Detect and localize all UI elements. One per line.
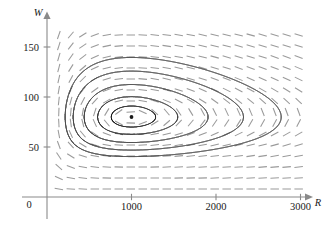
- direction-field-segment: [295, 45, 303, 48]
- direction-field-segment: [235, 98, 242, 103]
- direction-field-segment: [211, 34, 219, 36]
- direction-field-segment: [67, 189, 75, 190]
- direction-field-segment: [235, 132, 243, 136]
- direction-field-segment: [271, 144, 279, 146]
- direction-field: [55, 31, 303, 190]
- direction-field-segment: [57, 152, 62, 159]
- direction-field-segment: [247, 45, 255, 47]
- direction-field-segment: [283, 56, 291, 59]
- direction-field-segment: [259, 45, 267, 47]
- direction-field-segment: [115, 78, 123, 79]
- direction-field-segment: [79, 155, 87, 158]
- direction-field-segment: [247, 67, 255, 70]
- direction-field-segment: [67, 166, 75, 169]
- direction-field-segment: [115, 35, 123, 36]
- direction-field-segment: [223, 98, 230, 103]
- direction-field-segment: [175, 144, 183, 145]
- direction-field-segment: [105, 108, 109, 115]
- direction-field-segment: [211, 78, 219, 81]
- direction-field-segment: [70, 97, 72, 105]
- y-axis-label: W: [34, 7, 44, 18]
- direction-field-segment: [199, 88, 207, 91]
- direction-field-segment: [58, 64, 60, 72]
- direction-field-segment: [283, 45, 291, 48]
- direction-field-segment: [163, 133, 171, 135]
- direction-field-segment: [247, 34, 255, 36]
- direction-field-segment: [213, 108, 217, 116]
- direction-field-segment: [222, 167, 230, 168]
- direction-field-segment: [258, 167, 266, 168]
- origin-label: 0: [26, 199, 31, 210]
- direction-field-segment: [175, 56, 183, 58]
- direction-field-segment: [187, 156, 195, 157]
- direction-field-segment: [271, 77, 279, 81]
- direction-field-segment: [258, 155, 266, 156]
- direction-field-segment: [211, 144, 219, 146]
- direction-field-segment: [115, 57, 123, 58]
- direction-field-segment: [139, 79, 147, 80]
- direction-field-segment: [80, 87, 85, 94]
- direction-field-segment: [104, 120, 109, 127]
- direction-field-segment: [273, 108, 276, 116]
- direction-field-segment: [82, 119, 84, 127]
- direction-field-segment: [139, 68, 147, 69]
- direction-field-segment: [151, 133, 159, 135]
- direction-field-segment: [249, 108, 252, 116]
- x-axis-label: R: [314, 197, 322, 208]
- direction-field-segment: [297, 119, 301, 127]
- direction-field-segment: [211, 67, 219, 70]
- direction-field-segment: [283, 34, 291, 36]
- direction-field-segment: [79, 33, 86, 38]
- direction-field-segment: [163, 34, 171, 35]
- direction-field-segment: [187, 34, 195, 36]
- direction-field-segment: [294, 167, 302, 168]
- direction-field-segment: [186, 167, 194, 168]
- direction-field-segment: [175, 34, 183, 35]
- direction-field-segment: [296, 98, 302, 104]
- direction-field-segment: [210, 155, 218, 156]
- y-tick-label: 150: [23, 42, 39, 53]
- direction-field-segment: [295, 66, 303, 69]
- direction-field-segment: [297, 108, 300, 116]
- direction-field-segment: [58, 42, 61, 50]
- direction-field-segment: [139, 90, 147, 91]
- direction-field-segment: [187, 99, 194, 103]
- direction-field-segment: [151, 145, 159, 146]
- direction-field-segment: [271, 132, 278, 136]
- direction-field-segment: [199, 132, 207, 135]
- direction-field-segment: [271, 56, 279, 59]
- direction-field-segment: [81, 97, 85, 105]
- orbit-4: [73, 71, 243, 150]
- direction-field-segment: [91, 66, 99, 70]
- x-axis-tick-labels: 100020003000: [121, 201, 311, 212]
- direction-field-segment: [259, 34, 267, 36]
- direction-field-segment: [223, 144, 231, 146]
- direction-field-segment: [222, 155, 230, 156]
- direction-field-segment: [271, 45, 279, 48]
- direction-field-segment: [249, 119, 253, 126]
- direction-field-segment: [70, 119, 71, 127]
- direction-field-segment: [163, 45, 171, 46]
- direction-field-segment: [259, 132, 267, 136]
- direction-field-segment: [80, 76, 86, 82]
- direction-field-segment: [199, 99, 206, 104]
- direction-field-segment: [69, 64, 74, 71]
- direction-field-segment: [259, 66, 267, 69]
- direction-field-segment: [67, 154, 74, 159]
- direction-field-segment: [175, 133, 183, 136]
- y-axis-arrowhead: [43, 12, 50, 20]
- equilibrium-point-marker: [130, 115, 134, 119]
- y-tick-label: 100: [23, 92, 39, 103]
- phase-portrait-figure: 100020003000 50100150 0 R W: [0, 0, 327, 229]
- direction-field-segment: [163, 156, 171, 157]
- orbit-1-innermost: [111, 106, 155, 127]
- direction-field-segment: [139, 110, 147, 114]
- direction-field-segment: [69, 75, 73, 83]
- direction-field-segment: [223, 34, 231, 36]
- direction-field-segment: [151, 78, 159, 79]
- direction-field-segment: [259, 77, 267, 80]
- direction-field-segment: [103, 78, 111, 80]
- direction-field-segment: [82, 108, 84, 116]
- direction-field-segment: [68, 43, 73, 50]
- direction-field-segment: [175, 45, 183, 47]
